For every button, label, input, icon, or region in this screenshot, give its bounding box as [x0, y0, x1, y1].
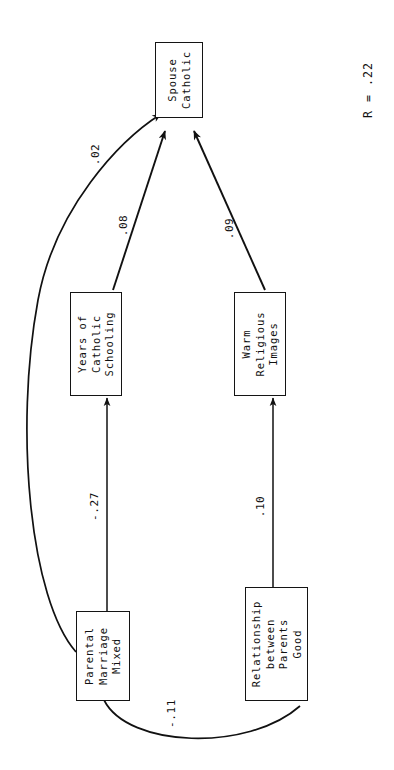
node-warm-religious-images: WarmReligiousImages: [234, 292, 286, 396]
edge-parental-with-relationship: [104, 700, 300, 738]
node-warm-religious-images-label: WarmReligiousImages: [240, 312, 281, 377]
edge-label-relationship-to-images: .10: [254, 496, 267, 518]
edge-label-parental-to-spouse: .02: [89, 144, 102, 166]
node-spouse-catholic: SpouseCatholic: [155, 42, 203, 118]
node-spouse-catholic-label: SpouseCatholic: [166, 51, 193, 109]
edge-label-parental-with-relationship: -.11: [165, 699, 178, 728]
path-diagram-figure: SpouseCatholic Years ofCatholicSchooling…: [0, 0, 394, 770]
node-parental-marriage-mixed: ParentalMarriageMixed: [76, 611, 130, 701]
node-relationship-between-parents-good-label: RelationshipbetweenParentsGood: [250, 601, 304, 688]
node-relationship-between-parents-good: RelationshipbetweenParentsGood: [245, 587, 308, 701]
fit-statistic: R = .22: [361, 62, 375, 118]
node-years-catholic-schooling: Years ofCatholicSchooling: [70, 292, 122, 396]
node-years-catholic-schooling-label: Years ofCatholicSchooling: [76, 312, 117, 377]
edge-label-schooling-to-spouse: .08: [117, 215, 130, 237]
edge-label-parental-to-schooling: -.27: [88, 492, 101, 521]
edge-schooling-to-spouse: [113, 131, 165, 290]
node-parental-marriage-mixed-label: ParentalMarriageMixed: [83, 627, 124, 685]
edge-images-to-spouse: [194, 131, 265, 290]
edge-label-images-to-spouse: .09: [223, 218, 236, 240]
